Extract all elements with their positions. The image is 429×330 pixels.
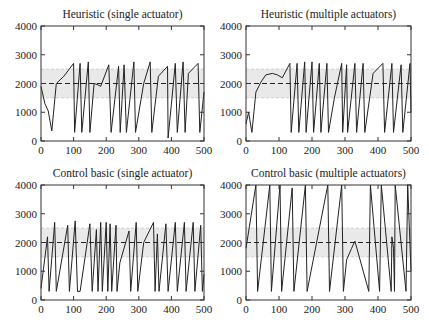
x-tick-label: 300 (131, 144, 148, 156)
y-tick-label: 3000 (15, 208, 38, 220)
y-tick-label: 3000 (220, 49, 243, 61)
x-tick-label: 200 (98, 303, 115, 315)
y-tick-label: 1000 (15, 106, 38, 118)
x-tick-label: 0 (243, 144, 249, 156)
panel-heuristic-multiple: 010020030040050001000200030004000Heurist… (220, 8, 420, 156)
y-tick-label: 0 (32, 294, 38, 306)
x-tick-label: 300 (337, 303, 354, 315)
y-tick-label: 0 (237, 135, 243, 147)
x-tick-label: 200 (304, 303, 321, 315)
x-tick-label: 200 (304, 144, 321, 156)
y-tick-label: 3000 (220, 208, 243, 220)
y-tick-label: 1000 (220, 265, 243, 277)
series-line-signal (246, 185, 411, 291)
x-tick-label: 500 (403, 303, 420, 315)
y-tick-label: 1000 (220, 106, 243, 118)
x-tick-label: 100 (271, 303, 288, 315)
panel-heuristic-single: 010020030040050001000200030004000Heurist… (15, 8, 213, 156)
x-tick-label: 400 (370, 303, 387, 315)
x-tick-label: 400 (163, 144, 180, 156)
y-tick-label: 2000 (15, 237, 38, 249)
x-tick-label: 400 (370, 144, 387, 156)
x-tick-label: 300 (337, 144, 354, 156)
x-tick-label: 200 (98, 144, 115, 156)
chart-title: Heuristic (single actuator) (62, 8, 182, 21)
x-tick-label: 100 (65, 303, 82, 315)
x-tick-label: 100 (65, 144, 82, 156)
x-tick-label: 300 (131, 303, 148, 315)
y-tick-label: 4000 (15, 20, 38, 32)
y-tick-label: 0 (237, 294, 243, 306)
panel-control-basic-multiple: 010020030040050001000200030004000Control… (220, 167, 420, 315)
figure: 010020030040050001000200030004000Heurist… (0, 0, 429, 330)
y-tick-label: 3000 (15, 49, 38, 61)
y-tick-label: 0 (32, 135, 38, 147)
y-tick-label: 2000 (15, 78, 38, 90)
y-tick-label: 4000 (15, 179, 38, 191)
x-tick-label: 0 (38, 144, 44, 156)
chart-title: Control basic (multiple actuators) (251, 167, 406, 180)
x-tick-label: 400 (163, 303, 180, 315)
y-tick-label: 4000 (220, 179, 243, 191)
chart-title: Heuristic (multiple actuators) (261, 8, 397, 21)
y-tick-label: 2000 (220, 78, 243, 90)
x-tick-label: 500 (403, 144, 420, 156)
chart-title: Control basic (single actuator) (53, 167, 193, 180)
x-tick-label: 500 (196, 303, 213, 315)
y-tick-label: 4000 (220, 20, 243, 32)
y-tick-label: 2000 (220, 237, 243, 249)
x-tick-label: 0 (38, 303, 44, 315)
panel-control-basic-single: 010020030040050001000200030004000Control… (15, 167, 213, 315)
y-tick-label: 1000 (15, 265, 38, 277)
x-tick-label: 100 (271, 144, 288, 156)
x-tick-label: 0 (243, 303, 249, 315)
x-tick-label: 500 (196, 144, 213, 156)
